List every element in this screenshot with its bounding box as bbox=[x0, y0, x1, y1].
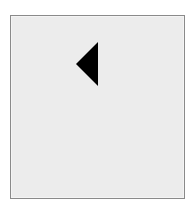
previous-arrow-button[interactable] bbox=[76, 42, 98, 86]
